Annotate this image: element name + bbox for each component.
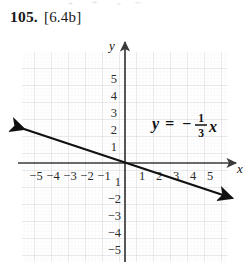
coordinate-plane-graph: y x −5 −4 −3 −2 −1 1 2 3 4 5 5 4 3 2 1 1… [0,0,252,271]
y-tick-labels-positive: 5 4 3 2 1 [111,72,118,154]
equation-minus-sign: − [182,115,192,132]
y-tick-neg4: −4 [108,226,122,240]
x-tick-neg1: −1 [97,169,110,183]
x-tick-pos2: 2 [156,169,162,183]
x-tick-neg4: −4 [46,169,60,183]
y-tick-neg5: −5 [108,243,121,257]
y-tick-pos5: 5 [111,72,117,86]
x-tick-pos5: 5 [207,169,213,183]
y-tick-neg2: −2 [108,192,121,206]
y-tick-pos4: 4 [111,89,118,103]
x-tick-neg2: −2 [80,169,93,183]
equation-lhs: y [150,115,160,133]
y-axis-label: y [107,38,115,53]
x-tick-neg5: −5 [29,169,42,183]
equation-equals: = [165,115,174,132]
x-tick-pos1: 1 [139,169,145,183]
x-tick-pos4: 4 [190,169,197,183]
x-axis-label: x [236,161,243,176]
equation-fraction-numerator: 1 [198,112,204,124]
y-tick-pos2: 2 [111,123,117,137]
y-tick-pos1: 1 [111,140,117,154]
equation-fraction-denominator: 3 [198,127,204,139]
x-tick-neg3: −3 [63,169,76,183]
y-tick-neg1: 1 [115,175,121,189]
y-tick-neg3: −3 [108,209,121,223]
equation-variable: x [208,118,217,135]
y-tick-pos3: 3 [111,106,117,120]
